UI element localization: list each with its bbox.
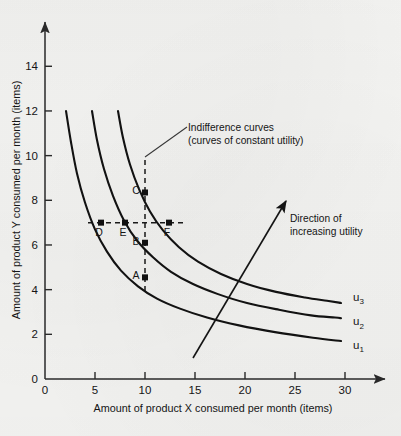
x-tick-label: 20 [239,384,252,396]
data-point-B [142,240,148,246]
annotations: Indifference curves(curves of constant u… [145,122,363,358]
y-tick-label: 10 [25,150,38,162]
curve-label-u2: u2 [353,315,364,331]
data-point-label-B: B [132,235,139,247]
annotation-leader-line [145,127,187,157]
y-axis-ticklabels: 02468101214 [25,60,38,385]
figure-page: 02468101214 Amount of product Y consumed… [0,0,401,436]
x-tick-label: 15 [189,384,202,396]
x-axis-ticks [95,372,345,379]
data-point-C [142,189,148,195]
x-tick-label: 0 [42,384,48,396]
x-axis-ticklabels: 051015202530 [42,384,352,396]
curve-label-u1: u1 [353,339,364,355]
y-tick-label: 12 [25,105,38,117]
y-tick-label: 14 [25,60,38,72]
curve-labels: u1u2u3 [353,291,364,355]
y-axis-ticks [45,66,52,334]
curve-label-u3: u3 [353,291,364,307]
direction-of-increasing-utility-note: Direction ofincreasing utility [290,213,363,237]
y-tick-label: 4 [32,284,39,296]
y-tick-label: 8 [32,194,38,206]
x-axis-title: Amount of product X consumed per month (… [94,402,333,414]
data-point-label-F: F [164,226,170,238]
data-point-label-E: E [119,226,126,238]
y-axis: 02468101214 Amount of product Y consumed… [10,22,52,385]
data-point-label-D: D [95,226,103,238]
y-tick-label: 0 [32,373,38,385]
x-tick-label: 25 [289,384,302,396]
increasing-utility-arrow [193,201,286,358]
data-point-label-A: A [132,269,139,281]
x-tick-label: 30 [339,384,352,396]
y-tick-label: 2 [32,328,38,340]
x-axis: 051015202530 Amount of product X consume… [42,372,385,414]
indifference-curves-note: Indifference curves(curves of constant u… [188,122,304,146]
y-tick-label: 6 [32,239,38,251]
data-point-label-C: C [132,184,140,196]
indifference-curve-chart: 02468101214 Amount of product Y consumed… [0,0,401,436]
y-axis-title: Amount of product Y consumed per month (… [10,81,22,319]
x-tick-label: 5 [92,384,98,396]
data-point-A [142,274,148,280]
x-tick-label: 10 [139,384,152,396]
data-points: ABCDEF [95,184,172,281]
